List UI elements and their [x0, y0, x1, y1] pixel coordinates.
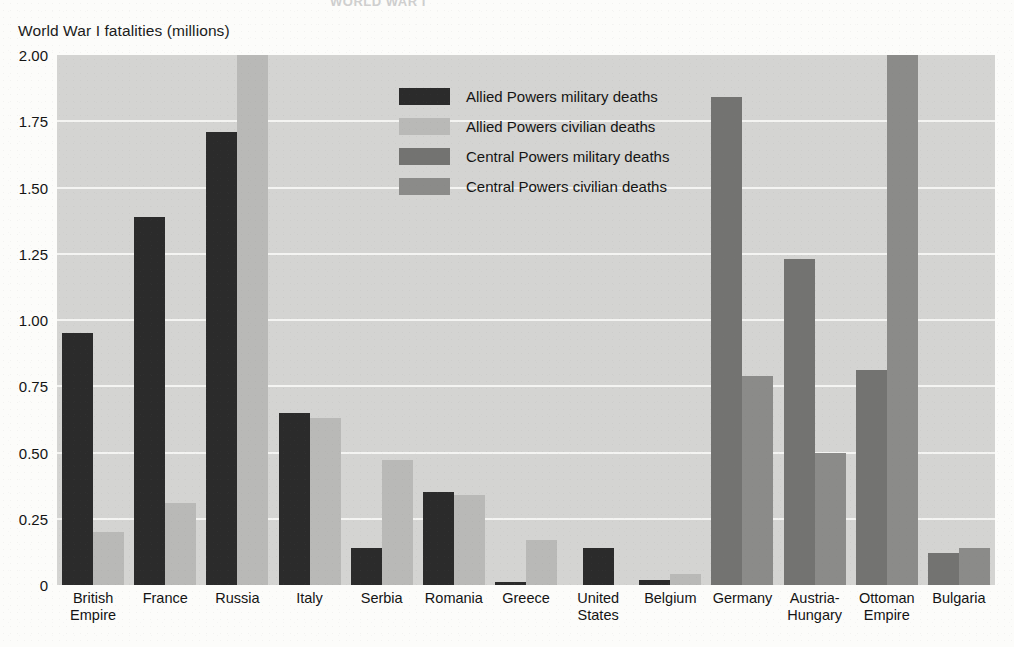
chart-legend: Allied Powers military deathsAllied Powe… [399, 84, 669, 204]
bar [959, 548, 990, 585]
x-axis-tick-label: Bulgaria [923, 590, 995, 642]
bar [206, 132, 237, 585]
y-axis-tick-label: 1.25 [0, 245, 48, 262]
bar [670, 574, 701, 585]
bar [784, 259, 815, 585]
y-axis-tick-label: 1.50 [0, 179, 48, 196]
bar [134, 217, 165, 585]
legend-item: Allied Powers military deaths [399, 84, 669, 109]
x-axis-tick-label: Serbia [346, 590, 418, 642]
bar [93, 532, 124, 585]
legend-label: Central Powers military deaths [466, 148, 669, 165]
y-axis-tick-label: 0.50 [0, 444, 48, 461]
bar-group [923, 55, 995, 585]
y-axis-tick-label: 1.00 [0, 312, 48, 329]
x-axis-tick-label: BritishEmpire [57, 590, 129, 642]
bar [495, 582, 526, 585]
x-axis-tick-label: Greece [490, 590, 562, 642]
bar-group [201, 55, 273, 585]
bar-group [851, 55, 923, 585]
bar-group [779, 55, 851, 585]
bar-group [273, 55, 345, 585]
x-axis-tick-label: France [129, 590, 201, 642]
legend-swatch [399, 178, 450, 195]
legend-item: Central Powers military deaths [399, 144, 669, 169]
x-axis-tick-label: UnitedStates [562, 590, 634, 642]
legend-label: Central Powers civilian deaths [466, 178, 667, 195]
bar [279, 413, 310, 585]
legend-label: Allied Powers civilian deaths [466, 118, 655, 135]
x-axis-tick-label: Austria-Hungary [779, 590, 851, 642]
legend-swatch [399, 148, 450, 165]
bar [887, 55, 918, 585]
cropped-page-title: WORLD WAR I [330, 0, 530, 6]
legend-label: Allied Powers military deaths [466, 88, 658, 105]
bar [165, 503, 196, 585]
y-axis-tick-label: 0 [0, 577, 48, 594]
bar [423, 492, 454, 585]
x-axis-labels: BritishEmpireFranceRussiaItalySerbiaRoma… [57, 590, 995, 642]
bar-group [706, 55, 778, 585]
bar [237, 55, 268, 585]
bar [526, 540, 557, 585]
bar-group [57, 55, 129, 585]
x-axis-tick-label: Germany [706, 590, 778, 642]
legend-item: Central Powers civilian deaths [399, 174, 669, 199]
legend-swatch [399, 88, 450, 105]
x-axis-tick-label: Belgium [634, 590, 706, 642]
x-axis-tick-label: Romania [418, 590, 490, 642]
chart-axis-caption: World War I fatalities (millions) [18, 22, 230, 40]
x-axis-tick-label: Italy [273, 590, 345, 642]
bar-group [129, 55, 201, 585]
x-axis-tick-label: Russia [201, 590, 273, 642]
bar [382, 460, 413, 585]
legend-item: Allied Powers civilian deaths [399, 114, 669, 139]
bar [711, 97, 742, 585]
y-axis-tick-label: 1.75 [0, 113, 48, 130]
y-axis-tick-label: 2.00 [0, 47, 48, 64]
x-axis-tick-label: OttomanEmpire [851, 590, 923, 642]
bar [742, 376, 773, 585]
bar [454, 495, 485, 585]
bar [856, 370, 887, 585]
bar [583, 548, 614, 585]
y-axis-tick-label: 0.75 [0, 378, 48, 395]
bar [310, 418, 341, 585]
bar [62, 333, 93, 585]
bar [928, 553, 959, 585]
bar [639, 580, 670, 585]
bar [351, 548, 382, 585]
y-axis-tick-label: 0.25 [0, 510, 48, 527]
bar [815, 453, 846, 586]
legend-swatch [399, 118, 450, 135]
chart-page: WORLD WAR I World War I fatalities (mill… [0, 0, 1014, 647]
